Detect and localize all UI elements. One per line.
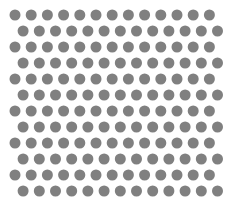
- pattern-dot: [107, 170, 118, 181]
- pattern-dot: [131, 58, 142, 69]
- pattern-dot: [212, 26, 223, 37]
- pattern-dot: [188, 106, 199, 117]
- pattern-dot: [204, 170, 215, 181]
- pattern-dot: [82, 58, 93, 69]
- pattern-dot: [99, 26, 110, 37]
- pattern-dot: [74, 10, 85, 21]
- pattern-dot: [10, 10, 21, 21]
- pattern-dot: [196, 26, 207, 37]
- pattern-dot: [123, 74, 134, 85]
- pattern-dot: [34, 154, 45, 165]
- pattern-dot: [188, 10, 199, 21]
- pattern-dot: [58, 138, 69, 149]
- pattern-dot: [18, 122, 29, 133]
- pattern-dot: [34, 186, 45, 197]
- pattern-dot: [74, 138, 85, 149]
- pattern-dot: [10, 106, 21, 117]
- pattern-dot: [212, 122, 223, 133]
- pattern-dot: [91, 10, 102, 21]
- pattern-dot: [196, 90, 207, 101]
- pattern-dot: [50, 90, 61, 101]
- pattern-dot: [42, 42, 53, 53]
- pattern-dot: [50, 58, 61, 69]
- pattern-dot: [139, 74, 150, 85]
- pattern-dot: [196, 58, 207, 69]
- pattern-dot: [172, 42, 183, 53]
- pattern-dot: [188, 42, 199, 53]
- pattern-dot: [115, 90, 126, 101]
- pattern-dot: [18, 154, 29, 165]
- pattern-dot: [212, 58, 223, 69]
- pattern-dot: [18, 186, 29, 197]
- pattern-dot: [58, 106, 69, 117]
- pattern-dot: [34, 90, 45, 101]
- pattern-dot: [212, 90, 223, 101]
- pattern-dot: [172, 74, 183, 85]
- pattern-dot: [18, 90, 29, 101]
- pattern-dot: [82, 186, 93, 197]
- pattern-dot: [91, 138, 102, 149]
- pattern-dot: [66, 26, 77, 37]
- pattern-dot: [163, 122, 174, 133]
- pattern-dot: [180, 186, 191, 197]
- pattern-dot: [99, 186, 110, 197]
- pattern-dot: [91, 42, 102, 53]
- pattern-dot: [204, 74, 215, 85]
- pattern-dot: [131, 26, 142, 37]
- pattern-dot: [107, 10, 118, 21]
- pattern-dot: [131, 186, 142, 197]
- pattern-dot: [91, 170, 102, 181]
- pattern-dot: [91, 106, 102, 117]
- pattern-dot: [10, 138, 21, 149]
- pattern-dot: [99, 58, 110, 69]
- pattern-dot: [155, 42, 166, 53]
- pattern-dot: [42, 10, 53, 21]
- pattern-dot: [115, 154, 126, 165]
- pattern-dot: [123, 138, 134, 149]
- pattern-dot: [74, 170, 85, 181]
- pattern-dot: [26, 42, 37, 53]
- pattern-dot: [163, 58, 174, 69]
- pattern-dot: [155, 170, 166, 181]
- pattern-dot: [34, 58, 45, 69]
- pattern-dot: [123, 106, 134, 117]
- pattern-dot: [155, 74, 166, 85]
- pattern-dot: [107, 42, 118, 53]
- pattern-dot: [66, 58, 77, 69]
- pattern-dot: [147, 90, 158, 101]
- pattern-dot: [204, 138, 215, 149]
- pattern-dot: [42, 106, 53, 117]
- dot-pattern-canvas: [0, 0, 227, 224]
- pattern-dot: [99, 122, 110, 133]
- pattern-dot: [26, 106, 37, 117]
- pattern-dot: [180, 154, 191, 165]
- pattern-dot: [50, 154, 61, 165]
- pattern-dot: [74, 42, 85, 53]
- pattern-dot: [107, 138, 118, 149]
- pattern-dot: [115, 186, 126, 197]
- pattern-dot: [18, 58, 29, 69]
- pattern-dot: [139, 42, 150, 53]
- pattern-dot: [196, 186, 207, 197]
- pattern-dot: [123, 42, 134, 53]
- pattern-dot: [172, 138, 183, 149]
- pattern-dot: [26, 170, 37, 181]
- pattern-dot: [42, 138, 53, 149]
- pattern-dot: [91, 74, 102, 85]
- pattern-dot: [26, 10, 37, 21]
- pattern-dot: [147, 154, 158, 165]
- pattern-dot: [180, 122, 191, 133]
- pattern-dot: [123, 170, 134, 181]
- pattern-dot: [66, 122, 77, 133]
- pattern-dot: [155, 138, 166, 149]
- pattern-dot: [147, 122, 158, 133]
- pattern-dot: [34, 26, 45, 37]
- pattern-dot: [115, 122, 126, 133]
- pattern-dot: [212, 154, 223, 165]
- pattern-dot: [42, 170, 53, 181]
- pattern-dot: [107, 106, 118, 117]
- pattern-dot: [10, 74, 21, 85]
- pattern-dot: [188, 138, 199, 149]
- pattern-dot: [155, 106, 166, 117]
- pattern-dot: [82, 26, 93, 37]
